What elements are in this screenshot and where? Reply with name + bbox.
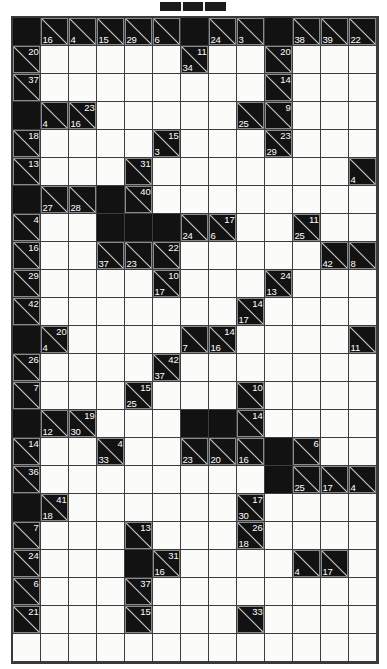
answer-cell[interactable] [237, 326, 265, 354]
answer-cell[interactable] [237, 270, 265, 298]
answer-cell[interactable] [41, 550, 69, 578]
answer-cell[interactable] [125, 74, 153, 102]
answer-cell[interactable] [237, 466, 265, 494]
answer-cell[interactable] [69, 494, 97, 522]
answer-cell[interactable] [321, 578, 349, 606]
answer-cell[interactable] [321, 130, 349, 158]
answer-cell[interactable] [321, 606, 349, 634]
answer-cell[interactable] [209, 74, 237, 102]
answer-cell[interactable] [349, 410, 377, 438]
answer-cell[interactable] [321, 354, 349, 382]
answer-cell[interactable] [69, 214, 97, 242]
answer-cell[interactable] [41, 130, 69, 158]
answer-cell[interactable] [125, 354, 153, 382]
answer-cell[interactable] [209, 494, 237, 522]
answer-cell[interactable] [69, 522, 97, 550]
answer-cell[interactable] [181, 634, 209, 662]
answer-cell[interactable] [13, 634, 41, 662]
answer-cell[interactable] [293, 410, 321, 438]
answer-cell[interactable] [209, 298, 237, 326]
answer-cell[interactable] [153, 158, 181, 186]
answer-cell[interactable] [125, 494, 153, 522]
answer-cell[interactable] [181, 242, 209, 270]
answer-cell[interactable] [69, 578, 97, 606]
answer-cell[interactable] [69, 326, 97, 354]
answer-cell[interactable] [293, 270, 321, 298]
answer-cell[interactable] [41, 382, 69, 410]
answer-cell[interactable] [97, 354, 125, 382]
answer-cell[interactable] [321, 46, 349, 74]
answer-cell[interactable] [293, 242, 321, 270]
answer-cell[interactable] [293, 158, 321, 186]
answer-cell[interactable] [293, 382, 321, 410]
answer-cell[interactable] [265, 550, 293, 578]
answer-cell[interactable] [153, 382, 181, 410]
answer-cell[interactable] [97, 102, 125, 130]
answer-cell[interactable] [349, 74, 377, 102]
answer-cell[interactable] [97, 606, 125, 634]
answer-cell[interactable] [125, 438, 153, 466]
answer-cell[interactable] [125, 46, 153, 74]
answer-cell[interactable] [321, 298, 349, 326]
answer-cell[interactable] [181, 130, 209, 158]
answer-cell[interactable] [41, 438, 69, 466]
answer-cell[interactable] [181, 270, 209, 298]
answer-cell[interactable] [265, 382, 293, 410]
answer-cell[interactable] [181, 522, 209, 550]
answer-cell[interactable] [237, 242, 265, 270]
answer-cell[interactable] [181, 578, 209, 606]
answer-cell[interactable] [125, 102, 153, 130]
answer-cell[interactable] [349, 606, 377, 634]
answer-cell[interactable] [349, 354, 377, 382]
answer-cell[interactable] [209, 634, 237, 662]
answer-cell[interactable] [209, 186, 237, 214]
answer-cell[interactable] [41, 522, 69, 550]
answer-cell[interactable] [153, 438, 181, 466]
answer-cell[interactable] [349, 634, 377, 662]
answer-cell[interactable] [153, 186, 181, 214]
answer-cell[interactable] [349, 130, 377, 158]
answer-cell[interactable] [153, 606, 181, 634]
answer-cell[interactable] [265, 410, 293, 438]
answer-cell[interactable] [125, 410, 153, 438]
answer-cell[interactable] [41, 466, 69, 494]
answer-cell[interactable] [293, 522, 321, 550]
answer-cell[interactable] [69, 74, 97, 102]
answer-cell[interactable] [349, 270, 377, 298]
answer-cell[interactable] [153, 466, 181, 494]
answer-cell[interactable] [321, 74, 349, 102]
answer-cell[interactable] [153, 46, 181, 74]
answer-cell[interactable] [97, 74, 125, 102]
answer-cell[interactable] [321, 494, 349, 522]
answer-cell[interactable] [69, 130, 97, 158]
answer-cell[interactable] [321, 214, 349, 242]
answer-cell[interactable] [97, 522, 125, 550]
answer-cell[interactable] [265, 494, 293, 522]
answer-cell[interactable] [41, 634, 69, 662]
answer-cell[interactable] [181, 158, 209, 186]
answer-cell[interactable] [125, 326, 153, 354]
answer-cell[interactable] [181, 382, 209, 410]
answer-cell[interactable] [69, 270, 97, 298]
answer-cell[interactable] [209, 354, 237, 382]
answer-cell[interactable] [41, 214, 69, 242]
answer-cell[interactable] [153, 634, 181, 662]
answer-cell[interactable] [41, 242, 69, 270]
answer-cell[interactable] [97, 46, 125, 74]
answer-cell[interactable] [153, 74, 181, 102]
answer-cell[interactable] [69, 606, 97, 634]
answer-cell[interactable] [41, 354, 69, 382]
answer-cell[interactable] [321, 382, 349, 410]
answer-cell[interactable] [265, 522, 293, 550]
answer-cell[interactable] [97, 326, 125, 354]
answer-cell[interactable] [209, 578, 237, 606]
answer-cell[interactable] [349, 186, 377, 214]
answer-cell[interactable] [97, 382, 125, 410]
answer-cell[interactable] [41, 158, 69, 186]
answer-cell[interactable] [321, 326, 349, 354]
answer-cell[interactable] [69, 438, 97, 466]
answer-cell[interactable] [349, 550, 377, 578]
answer-cell[interactable] [265, 186, 293, 214]
answer-cell[interactable] [125, 634, 153, 662]
answer-cell[interactable] [69, 354, 97, 382]
